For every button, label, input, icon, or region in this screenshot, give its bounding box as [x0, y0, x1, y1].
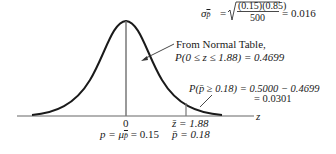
std-error-value: = 0.016: [282, 7, 316, 19]
bell-curve: [32, 21, 222, 115]
mean-label: p = μp̄ = 0.15: [100, 128, 159, 142]
equals-sign: =: [220, 7, 226, 19]
normal-table-note: From Normal Table,: [176, 38, 266, 50]
area-probability: P(0 ≤ z ≤ 1.88) = 0.4699: [175, 51, 284, 63]
tail-result: = 0.0301: [254, 93, 291, 105]
tail-arrow: [200, 95, 212, 107]
sigma-symbol: σp̄: [201, 7, 210, 21]
axis-label-z: z: [256, 110, 260, 122]
normal-curve-plot: [0, 0, 336, 154]
numerator: (0.15)(0.85): [238, 0, 286, 12]
denominator: 500: [250, 12, 265, 24]
arrowhead-icon: [141, 56, 148, 61]
p-bar-label: p̄ = 0.18: [172, 128, 210, 140]
